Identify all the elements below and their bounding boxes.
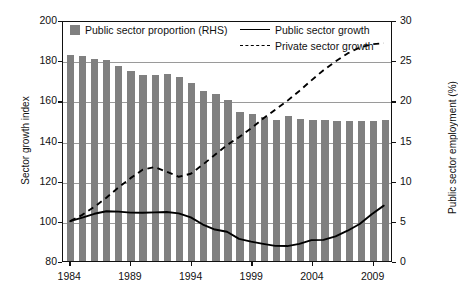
legend-item-public-sector-growth: Public sector growth [240,24,370,36]
legend-swatch-icon [70,25,80,35]
chart-legend: Public sector proportion (RHS) Public se… [62,21,392,57]
x-axis-tick-mark [312,262,313,266]
plot-area [62,21,392,262]
legend-solid-line-icon [240,29,270,30]
x-axis-tick-label: 2009 [361,270,384,282]
y-axis-right-tick-label: 5 [400,215,440,227]
x-axis-tick-label: 1984 [58,270,81,282]
x-axis-tick-label: 1994 [179,270,202,282]
legend-item-public-sector-proportion: Public sector proportion (RHS) [70,24,227,36]
legend-label: Private sector growth [275,40,374,52]
y-axis-right-title: Public sector employment (%) [447,63,458,233]
line-series-layer [63,22,391,261]
y-axis-left-tick-mark [58,182,62,183]
y-axis-right-tick-mark [392,61,396,62]
y-axis-right-tick-label: 15 [400,135,440,147]
y-axis-right-tick-label: 10 [400,175,440,187]
legend-label: Public sector growth [275,24,370,36]
private-sector-growth-line [70,43,384,221]
y-axis-right-tick-mark [392,262,396,263]
x-axis-tick-mark [373,262,374,266]
y-axis-left-tick-label: 200 [17,14,57,26]
public-sector-growth-line [70,206,384,246]
x-axis-tick-mark [251,262,252,266]
y-axis-right-tick-label: 20 [400,94,440,106]
y-axis-right-tick-label: 30 [400,14,440,26]
legend-dashed-line-icon [240,45,270,46]
y-axis-left-tick-label: 120 [17,175,57,187]
x-axis-tick-label: 1999 [240,270,263,282]
legend-label: Public sector proportion (RHS) [85,24,227,36]
y-axis-right-tick-mark [392,142,396,143]
y-axis-right-tick-label: 0 [400,255,440,267]
legend-item-private-sector-growth: Private sector growth [240,40,374,52]
x-axis-tick-mark [69,262,70,266]
y-axis-left-tick-label: 180 [17,54,57,66]
y-axis-right-tick-mark [392,222,396,223]
x-axis-tick-mark [191,262,192,266]
y-axis-right-tick-mark [392,21,396,22]
x-axis-tick-label: 2004 [300,270,323,282]
y-axis-left-tick-mark [58,222,62,223]
y-axis-right-tick-label: 25 [400,54,440,66]
y-axis-right-tick-mark [392,101,396,102]
y-axis-left-tick-label: 160 [17,94,57,106]
x-axis-tick-label: 1989 [118,270,141,282]
y-axis-left-tick-mark [58,262,62,263]
y-axis-left-tick-mark [58,101,62,102]
y-axis-left-tick-label: 100 [17,215,57,227]
y-axis-left-tick-mark [58,142,62,143]
x-axis-tick-mark [130,262,131,266]
y-axis-left-tick-mark [58,61,62,62]
y-axis-right-tick-mark [392,182,396,183]
y-axis-left-tick-label: 80 [17,255,57,267]
y-axis-left-tick-label: 140 [17,135,57,147]
